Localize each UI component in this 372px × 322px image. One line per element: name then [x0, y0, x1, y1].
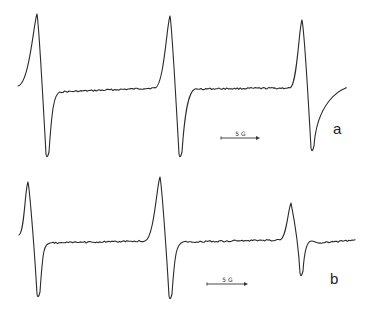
- scale-bar-arrow-icon-b: [244, 282, 248, 286]
- panel-label-a: a: [333, 120, 342, 137]
- scale-bar-label-b: 5 G: [222, 276, 233, 283]
- spectrum-trace-b: [19, 177, 355, 299]
- scale-bar-arrow-icon-a: [256, 136, 260, 140]
- panel-label-b: b: [330, 270, 338, 287]
- scale-bar-a: 5 G: [221, 130, 260, 141]
- epr-spectra-figure: 5 G 5 G a b: [0, 0, 372, 322]
- scale-bar-b: 5 G: [207, 276, 248, 287]
- scale-bar-label-a: 5 G: [235, 130, 246, 137]
- spectrum-trace-a: [18, 14, 346, 157]
